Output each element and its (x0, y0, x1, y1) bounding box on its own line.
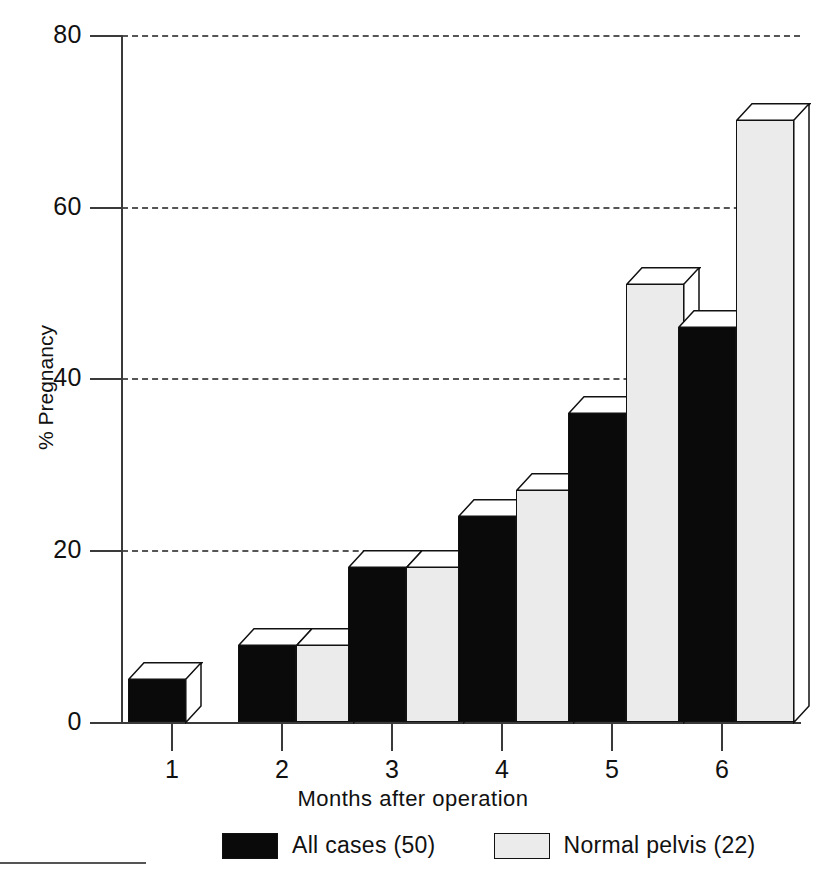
x-tick-label-4: 4 (472, 755, 532, 784)
y-tick-60 (90, 207, 122, 209)
bar-month6-normal-pelvis (736, 103, 794, 722)
bar-front-face (568, 413, 626, 722)
bar-month3-all-cases (348, 550, 406, 722)
legend-swatch-all-cases (222, 833, 278, 859)
y-tick-0 (90, 722, 122, 724)
bar-front-face (348, 567, 406, 722)
legend-item-normal-pelvis: Normal pelvis (22) (494, 832, 756, 859)
bar-front-face (128, 679, 186, 722)
bar-month6-all-cases (678, 310, 736, 722)
legend-label-all-cases: All cases (50) (292, 832, 436, 859)
legend-item-all-cases: All cases (50) (222, 832, 436, 859)
y-tick-label-20: 20 (20, 535, 82, 564)
chart-legend: All cases (50) Normal pelvis (22) (222, 832, 756, 859)
bar-front-face (626, 284, 684, 722)
bar-front-face (296, 645, 354, 722)
y-tick-label-60: 60 (20, 192, 82, 221)
bar-month5-normal-pelvis (626, 267, 684, 722)
y-tick-80 (90, 35, 122, 37)
chart-figure: 80 60 40 20 0 % Pregnancy 1 2 3 4 5 6 Mo… (0, 0, 826, 872)
bar-front-face (458, 516, 516, 722)
x-tick-label-6: 6 (692, 755, 752, 784)
bar-month5-all-cases (568, 396, 626, 722)
bar-month2-all-cases (238, 628, 296, 722)
bar-month4-normal-pelvis (516, 473, 574, 722)
legend-swatch-normal-pelvis (494, 833, 550, 859)
x-tick-6 (721, 723, 723, 751)
bar-side-face (793, 103, 813, 724)
y-axis-title: % Pregnancy (34, 325, 58, 450)
x-tick-label-2: 2 (252, 755, 312, 784)
x-tick-5 (611, 723, 613, 751)
bar-front-face (406, 567, 464, 722)
bar-month1-all-cases (128, 662, 186, 722)
gridline-80 (122, 35, 800, 37)
x-tick-4 (501, 723, 503, 751)
x-tick-1 (171, 723, 173, 751)
bar-front-face (516, 490, 574, 722)
x-tick-label-1: 1 (142, 755, 202, 784)
gridline-60 (122, 207, 800, 209)
x-tick-label-3: 3 (362, 755, 422, 784)
y-tick-20 (90, 550, 122, 552)
x-tick-3 (391, 723, 393, 751)
bar-month4-all-cases (458, 499, 516, 722)
bar-side-face (185, 662, 205, 724)
y-tick-label-0: 0 (20, 707, 82, 736)
bar-month3-normal-pelvis (406, 550, 464, 722)
footer-divider (0, 862, 146, 864)
y-tick-label-80: 80 (20, 20, 82, 49)
bar-month2-normal-pelvis (296, 628, 354, 722)
legend-label-normal-pelvis: Normal pelvis (22) (564, 832, 756, 859)
x-axis-title: Months after operation (0, 786, 826, 812)
x-tick-2 (281, 723, 283, 751)
bar-front-face (238, 645, 296, 722)
x-tick-label-5: 5 (582, 755, 642, 784)
bar-front-face (736, 120, 794, 722)
y-tick-40 (90, 378, 122, 380)
bar-front-face (678, 327, 736, 722)
